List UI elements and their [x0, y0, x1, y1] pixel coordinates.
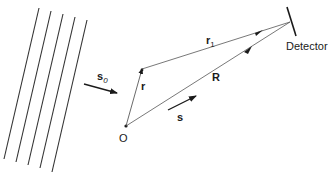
incident-direction-arrow [84, 84, 117, 93]
position-vector-label: r [141, 80, 146, 92]
scattering-diagram: s0 O r r1 R s Detector [0, 0, 332, 179]
r1-arrowhead-icon [255, 30, 263, 36]
path-vector-label: r1 [206, 34, 215, 49]
path-vector-r1 [142, 22, 290, 69]
scattered-vector-label: s [177, 111, 183, 123]
scattered-direction-arrow [168, 96, 196, 110]
incident-vector-label: s0 [97, 70, 108, 85]
origin-label: O [119, 132, 128, 144]
detector-label: Detector [286, 40, 328, 52]
detector-plate [287, 7, 296, 36]
detector-vector-label: R [212, 71, 220, 83]
wavefronts [4, 8, 87, 172]
